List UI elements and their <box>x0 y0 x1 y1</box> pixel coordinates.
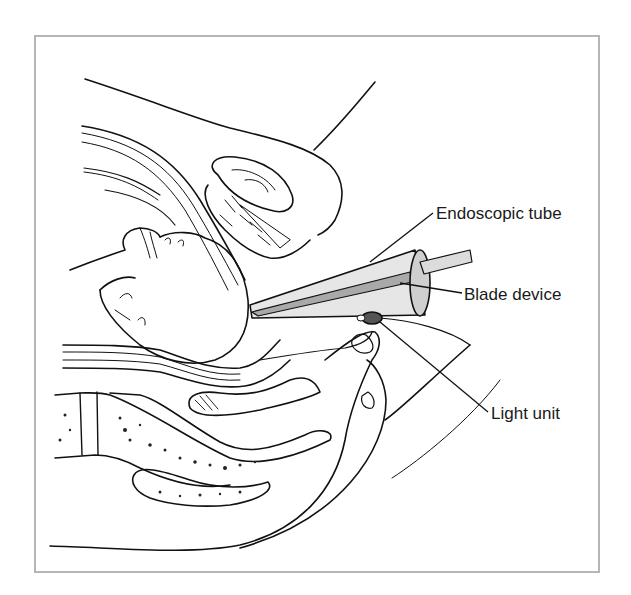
label-blade-device: Blade device <box>464 286 561 303</box>
abdomen-contour <box>85 79 342 235</box>
label-endoscopic-tube: Endoscopic tube <box>436 205 562 222</box>
endoscopic-tube-instrument <box>250 250 472 324</box>
head-outline <box>100 233 248 364</box>
label-light-unit: Light unit <box>491 405 560 422</box>
skin-fold-line <box>314 82 375 150</box>
organ-upper <box>212 157 293 212</box>
